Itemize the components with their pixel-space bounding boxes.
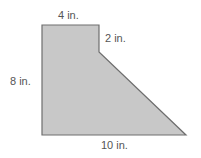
label-top: 4 in. [58,9,79,21]
label-left: 8 in. [10,75,31,87]
label-bottom: 10 in. [101,139,128,151]
label-right-step: 2 in. [105,32,126,44]
